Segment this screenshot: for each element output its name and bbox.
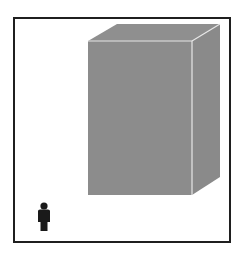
scale-diagram (0, 0, 244, 259)
box-front-face (88, 41, 192, 195)
person-icon (38, 202, 50, 231)
box-prism (88, 24, 220, 195)
box-right-face (192, 24, 220, 195)
